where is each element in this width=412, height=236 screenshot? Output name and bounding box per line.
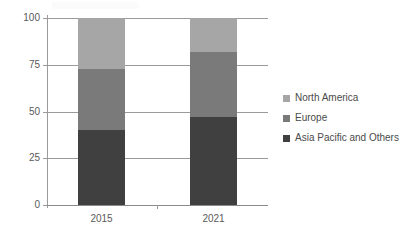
x-tick-label-2015: 2015 xyxy=(90,214,112,224)
legend-swatch-icon-north-america xyxy=(283,95,290,102)
y-tick-label-0: 0 xyxy=(34,200,40,210)
bar-segment-2021-north-america[interactable] xyxy=(190,18,237,52)
plot-area: 100 75 50 25 0 xyxy=(47,18,268,205)
y-tick-label-100: 100 xyxy=(23,13,40,23)
y-tick-mark-25 xyxy=(43,158,47,159)
legend-item-europe[interactable]: Europe xyxy=(283,108,409,128)
x-tick-label-2021: 2021 xyxy=(202,214,224,224)
stacked-bar-chart: 100 75 50 25 0 xyxy=(0,0,412,236)
y-tick-label-50: 50 xyxy=(29,107,40,117)
y-tick-mark-0 xyxy=(43,205,47,206)
y-tick-mark-75 xyxy=(43,65,47,66)
y-tick-mark-50 xyxy=(43,112,47,113)
y-tick-label-25: 25 xyxy=(29,153,40,163)
bar-segment-2015-asia-pacific[interactable] xyxy=(78,130,125,205)
bar-segment-2015-north-america[interactable] xyxy=(78,18,125,68)
bar-segment-2021-asia-pacific[interactable] xyxy=(190,117,237,205)
bar-segment-2021-europe[interactable] xyxy=(190,52,237,117)
scan-artifact xyxy=(52,2,138,9)
bar-segment-2015-europe[interactable] xyxy=(78,69,125,131)
y-tick-mark-100 xyxy=(43,18,47,19)
legend-swatch-icon-europe xyxy=(283,115,290,122)
legend-label-asia-pacific: Asia Pacific and Others xyxy=(295,133,399,143)
legend-label-north-america: North America xyxy=(295,93,358,103)
legend-label-europe: Europe xyxy=(295,113,327,123)
y-tick-label-75: 75 xyxy=(29,60,40,70)
x-axis-minor-tick xyxy=(157,205,158,209)
legend-item-asia-pacific[interactable]: Asia Pacific and Others xyxy=(283,128,409,148)
chart-legend: North America Europe Asia Pacific and Ot… xyxy=(283,88,409,148)
legend-item-north-america[interactable]: North America xyxy=(283,88,409,108)
legend-swatch-icon-asia-pacific xyxy=(283,135,290,142)
